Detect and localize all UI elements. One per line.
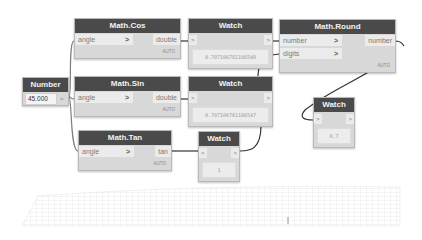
watch-output-port[interactable]: > xyxy=(264,35,272,45)
math-cos-node[interactable]: Math.Cos angle > double AUTO xyxy=(74,18,181,59)
watch-node-round[interactable]: Watch > > 0.7 xyxy=(313,97,355,148)
watch-title: Watch xyxy=(199,132,239,146)
number-output-port[interactable]: > xyxy=(60,96,64,102)
chevron-right-icon: > xyxy=(126,146,130,157)
watch-node-cos[interactable]: Watch > > 0.707106781186548 xyxy=(188,18,273,69)
number-value-input[interactable]: 45.000 xyxy=(25,93,57,105)
watch-value: 0.707106781186548 xyxy=(192,49,269,65)
watch-input-port[interactable]: > xyxy=(199,148,207,158)
watch-input-port[interactable]: > xyxy=(189,35,197,45)
watch-value: 0.7 xyxy=(317,128,351,144)
chevron-right-icon: > xyxy=(334,48,338,59)
watch-node-sin[interactable]: Watch > > 0.707106781186547 xyxy=(188,76,273,127)
math-sin-title: Math.Sin xyxy=(75,77,180,91)
watch-node-tan[interactable]: Watch > > 1 xyxy=(198,131,240,182)
port-label: digits xyxy=(283,50,299,57)
lacing-label: AUTO xyxy=(75,104,180,116)
math-tan-title: Math.Tan xyxy=(79,131,171,145)
port-label: number xyxy=(283,37,307,44)
watch-output-port[interactable]: > xyxy=(346,114,354,124)
lacing-label: AUTO xyxy=(75,46,180,58)
math-tan-node[interactable]: Math.Tan angle > tan AUTO xyxy=(78,130,172,171)
wire-watch2-watch4 xyxy=(240,125,261,151)
port-label: angle xyxy=(78,94,95,101)
watch-title: Watch xyxy=(189,19,272,33)
wire-watch2-round-digits xyxy=(272,54,279,55)
watch-title: Watch xyxy=(189,77,272,91)
math-round-node[interactable]: Math.Round number > number digits > AUTO xyxy=(279,19,396,73)
watch-output-port[interactable]: > xyxy=(231,148,239,158)
math-sin-node[interactable]: Math.Sin angle > double AUTO xyxy=(74,76,181,117)
watch-output-port[interactable]: > xyxy=(264,93,272,103)
port-label: angle xyxy=(82,148,99,155)
math-round-title: Math.Round xyxy=(280,20,395,34)
watch-input-port[interactable]: > xyxy=(189,93,197,103)
number-node[interactable]: Number 45.000 > xyxy=(22,77,69,106)
math-round-output-port[interactable]: number xyxy=(365,35,395,46)
math-tan-tan-port[interactable]: tan xyxy=(155,146,171,157)
wire-round-out xyxy=(395,41,404,46)
number-node-title: Number xyxy=(23,78,68,92)
math-cos-title: Math.Cos xyxy=(75,19,180,33)
math-sin-double-port[interactable]: double xyxy=(153,92,180,103)
watch-title: Watch xyxy=(314,98,354,112)
lacing-label: AUTO xyxy=(79,158,171,170)
math-round-digits-port[interactable]: digits > xyxy=(280,48,342,59)
math-sin-angle-port[interactable]: angle > xyxy=(75,92,133,103)
math-round-number-port[interactable]: number > xyxy=(280,35,342,46)
port-label: angle xyxy=(78,36,95,43)
chevron-right-icon: > xyxy=(125,92,129,103)
math-cos-double-port[interactable]: double xyxy=(153,34,180,45)
chevron-right-icon: > xyxy=(125,34,129,45)
math-tan-angle-port[interactable]: angle > xyxy=(79,146,134,157)
watch-input-port[interactable]: > xyxy=(314,114,322,124)
watch-value: 0.707106781186547 xyxy=(192,107,269,123)
chevron-right-icon: > xyxy=(334,35,338,46)
math-cos-angle-port[interactable]: angle > xyxy=(75,34,133,45)
lacing-label: AUTO xyxy=(280,60,395,72)
watch-value: 1 xyxy=(202,162,236,178)
background-grid-plane xyxy=(22,186,400,226)
